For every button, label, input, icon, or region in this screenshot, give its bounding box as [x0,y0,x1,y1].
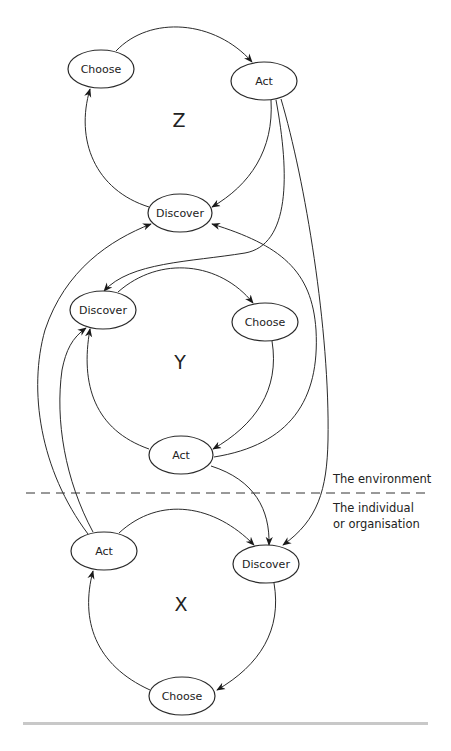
loop-label-y: Y [173,351,186,373]
zone-label-individual-line1: The individual [332,501,414,515]
node-z-discover: Discover [148,194,212,232]
node-label: Act [95,545,113,558]
edge-y-act-to-discover [87,329,149,449]
node-z-choose: Choose [68,50,134,88]
node-z-act: Act [231,62,297,100]
node-label: Discover [156,207,204,220]
loop-label-z: Z [172,109,185,131]
node-y-choose: Choose [232,303,298,341]
edge-x-act-to-z-discover [38,224,151,534]
node-label: Act [172,449,190,462]
edge-y-act-to-x-discover [211,466,269,545]
node-label: Choose [245,316,286,329]
diagram-canvas: Choose Act Discover Z Discover Choose Ac… [0,0,451,751]
edge-z-act-to-discover [212,100,271,207]
node-y-act: Act [149,436,213,474]
edge-x-act-to-y-discover [60,328,93,532]
edge-z-choose-to-act [116,27,252,62]
node-label: Discover [79,304,127,317]
edge-y-discover-to-choose [118,268,253,303]
node-label: Choose [81,63,122,76]
node-x-act: Act [71,532,137,570]
bottom-rule [23,722,428,725]
node-label: Choose [162,690,203,703]
node-label: Discover [242,558,290,571]
edge-x-act-to-discover [119,509,254,545]
loop-label-x: X [174,593,187,615]
node-y-discover: Discover [70,291,136,329]
node-x-choose: Choose [149,677,215,715]
node-label: Act [255,75,273,88]
edge-x-choose-to-act [89,571,150,690]
edge-z-discover-to-choose [85,89,149,207]
node-x-discover: Discover [233,545,299,583]
edge-x-discover-to-choose [217,583,276,690]
zone-label-environment: The environment [332,472,432,486]
edge-y-choose-to-act [213,341,273,449]
zone-label-individual-line2: or organisation [333,517,420,531]
